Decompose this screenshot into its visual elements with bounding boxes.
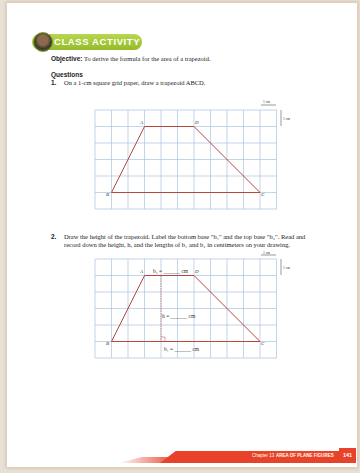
footer-chapter-title: AREA OF PLANE FIGURES xyxy=(276,453,334,458)
question-2-number: 2. xyxy=(51,232,56,241)
vertex-d-label: D xyxy=(194,269,199,274)
scale-label-horizontal: 1 cm xyxy=(263,251,270,255)
right-angle-mark xyxy=(161,337,165,342)
objective-line: Objective: To derive the formula for the… xyxy=(51,54,211,63)
question-1-text: On a 1-cm square grid paper, draw a trap… xyxy=(64,78,205,87)
b2-label: b₂ = ______ cm xyxy=(153,268,189,274)
vertex-d-label: D xyxy=(194,120,199,125)
scale-label-vertical: 1 cm xyxy=(283,117,290,121)
objective-text: To derive the formula for the area of a … xyxy=(84,55,211,62)
objective-label: Objective: xyxy=(51,55,82,62)
scale-label-horizontal: 1 cm xyxy=(263,100,270,104)
trapezoid-figure-1: A D B C 1 cm 1 cm xyxy=(90,98,290,213)
class-activity-title: CLASS ACTIVITY 3 xyxy=(54,36,149,47)
question-2-line-2: record down the height, h, and the lengt… xyxy=(64,240,290,249)
scale-label-vertical: 1 cm xyxy=(283,266,290,270)
trapezoid-figure-2: A D B C b₂ = ______ cm h = ______ cm b₁ … xyxy=(90,250,290,365)
student-portrait-icon xyxy=(33,32,53,52)
page-number: 141 xyxy=(339,448,356,463)
vertex-a-label: A xyxy=(139,269,144,274)
vertex-b-label: B xyxy=(106,341,109,346)
vertex-a-label: A xyxy=(139,120,144,125)
b1-label: b₁ = ______ cm xyxy=(164,346,200,352)
h-label: h = ______ cm xyxy=(162,313,196,319)
vertex-b-label: B xyxy=(106,192,109,197)
question-1-number: 1. xyxy=(51,78,56,87)
grid-1 xyxy=(95,110,277,209)
footer-chapter: Chapter 13 xyxy=(252,453,274,458)
